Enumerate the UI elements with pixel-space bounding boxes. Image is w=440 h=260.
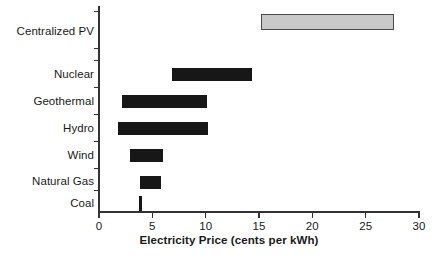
bar-hydro: [118, 122, 208, 135]
x-tick-label-0: 0: [79, 220, 119, 232]
category-label-natural-gas: Natural Gas: [2, 175, 94, 187]
bar-geothermal: [122, 95, 206, 108]
x-tick-label-10: 10: [186, 220, 226, 232]
x-axis-tick: [312, 212, 313, 218]
y-axis-tick: [94, 60, 99, 61]
y-axis-tick: [94, 168, 99, 169]
category-label-centralized-pv: Centralized PV: [2, 25, 94, 37]
x-axis-title: Electricity Price (cents per kWh): [0, 234, 440, 246]
x-axis-title-text: Electricity Price (cents per kWh): [121, 234, 318, 246]
electricity-price-range-chart: Centralized PV Nuclear Geothermal Hydro …: [0, 0, 440, 260]
x-tick-label-30: 30: [399, 220, 439, 232]
x-tick-label-20: 20: [292, 220, 332, 232]
y-axis-tick: [94, 11, 99, 12]
y-axis-tick: [94, 48, 99, 49]
y-axis-tick: [94, 114, 99, 115]
category-label-wind: Wind: [2, 149, 94, 161]
category-label-coal: Coal: [2, 197, 94, 209]
x-axis-tick: [152, 212, 153, 218]
bar-coal: [139, 196, 141, 211]
x-axis-tick: [365, 212, 366, 218]
category-label-nuclear: Nuclear: [2, 68, 94, 80]
y-axis-tick: [94, 141, 99, 142]
bar-centralized-pv: [261, 14, 394, 30]
y-axis-tick: [94, 87, 99, 88]
x-tick-label-5: 5: [132, 220, 172, 232]
x-tick-label-15: 15: [239, 220, 279, 232]
x-axis-tick: [418, 212, 419, 218]
x-axis-tick: [258, 212, 259, 218]
plot-area: 0 5 10 15 20 25 30: [99, 6, 419, 211]
x-axis-tick: [205, 212, 206, 218]
bar-nuclear: [172, 68, 252, 81]
category-label-geothermal: Geothermal: [2, 95, 94, 107]
x-tick-label-25: 25: [346, 220, 386, 232]
x-axis-tick: [98, 212, 99, 218]
bar-natural-gas: [140, 176, 161, 189]
category-label-hydro: Hydro: [2, 122, 94, 134]
bar-wind: [130, 149, 163, 162]
y-axis-tick: [94, 190, 99, 191]
